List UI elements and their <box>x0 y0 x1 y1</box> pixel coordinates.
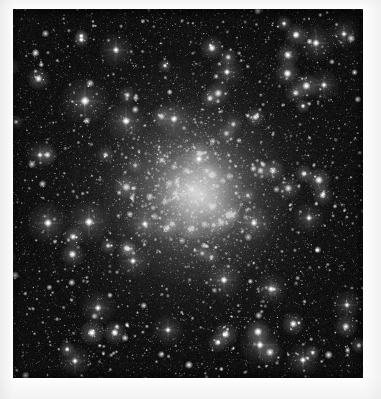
image-page: Globular Cluster Image <box>0 0 381 399</box>
bright-stars-canvas <box>13 9 363 378</box>
globular-cluster-photograph <box>13 9 363 378</box>
